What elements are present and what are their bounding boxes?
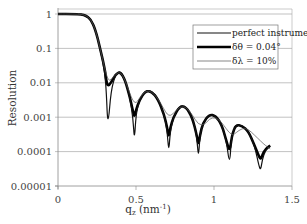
y-tick-label: 0.001 <box>23 112 52 123</box>
y-tick-label: 1 <box>46 9 52 20</box>
y-tick-label: 0.1 <box>36 43 52 54</box>
x-tick-label: 0 <box>55 194 61 205</box>
chart: 10.10.010.0010.00010.00001 00.511.5 Reso… <box>0 0 307 224</box>
legend-label-dlambda: δλ = 10% <box>232 56 277 66</box>
y-tick-label: 0.01 <box>30 77 52 88</box>
y-tick-label: 0.0001 <box>17 146 52 157</box>
legend: perfect instrument δθ = 0.04° δλ = 10% <box>193 25 307 69</box>
x-tick-label: 1.5 <box>284 194 300 205</box>
y-axis-label: Resolution <box>6 69 18 126</box>
legend-label-perfect: perfect instrument <box>232 28 307 38</box>
x-axis-label: qz (nm-1) <box>125 203 171 217</box>
x-tick-labels: 00.511.5 <box>55 194 300 205</box>
y-tick-label: 0.00001 <box>11 181 52 192</box>
x-tick-label: 1 <box>211 194 217 205</box>
legend-label-dtheta: δθ = 0.04° <box>232 42 281 52</box>
